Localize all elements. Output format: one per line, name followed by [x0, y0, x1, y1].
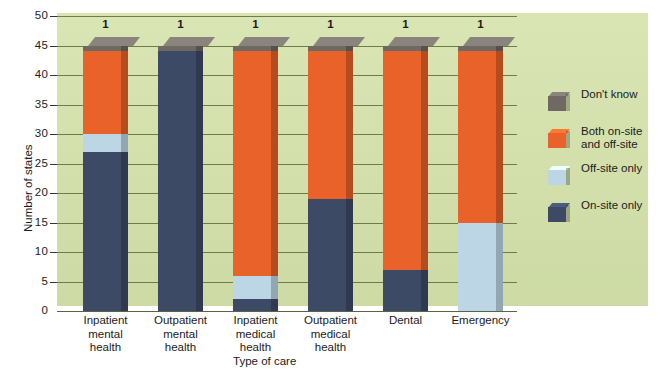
bar-segment-shading [346, 51, 353, 199]
bar-top-cap-face [313, 37, 365, 46]
bar-segment-shading [121, 46, 128, 52]
legend-swatch-side [566, 168, 570, 185]
bar-segment-shading [271, 276, 278, 300]
legend-item-label: Don't know [581, 88, 659, 101]
bar-top-value-label: 1 [383, 18, 428, 30]
y-axis: Number of states 05101520253035404550 [0, 0, 57, 378]
bar-segment[interactable] [458, 223, 503, 312]
bar-segment[interactable] [308, 51, 353, 199]
plot-area: 2731414412438119251737115291 [57, 16, 517, 311]
x-axis-tick-label: Emergency [426, 314, 536, 328]
bar-group: 24381 [233, 16, 278, 311]
legend-item-label: Both on-site and off-site [581, 125, 659, 151]
legend-swatch-side [566, 94, 570, 111]
bar-segment-shading [121, 152, 128, 311]
bar-top-cap [83, 37, 128, 46]
bar-segment[interactable] [83, 134, 128, 152]
bar-segment-shading [421, 51, 428, 269]
y-axis-tick-label: 30 [14, 127, 48, 139]
x-axis-tick-label-line: health [276, 341, 386, 355]
legend-item-label: On-site only [581, 199, 659, 212]
bar-top-value-label: 1 [158, 18, 203, 30]
legend-swatch-face [548, 207, 566, 222]
bar-segment[interactable] [458, 46, 503, 52]
y-axis-tick-label: 50 [14, 9, 48, 21]
y-axis-tick-label: 40 [14, 68, 48, 80]
bar-segment[interactable] [158, 46, 203, 52]
bar-top-cap [308, 37, 353, 46]
bar-segment-shading [346, 46, 353, 52]
axis-baseline [57, 311, 517, 312]
bar-top-value-label: 1 [308, 18, 353, 30]
legend-swatch-icon [548, 203, 570, 222]
bar-segment-shading [346, 199, 353, 311]
bar-segment[interactable] [83, 51, 128, 134]
bar-segment-shading [196, 46, 203, 52]
legend-swatch-icon [548, 92, 570, 111]
legend-swatch-face [548, 170, 566, 185]
legend-item[interactable]: On-site only [548, 197, 658, 234]
y-axis-tick-mark [50, 105, 57, 106]
y-axis-tick-label: 15 [14, 216, 48, 228]
x-axis-tick-label-line: medical [276, 328, 386, 342]
bar-segment-shading [496, 46, 503, 52]
chart-legend: Don't knowBoth on-site and off-siteOff-s… [548, 86, 658, 234]
bar-segment[interactable] [233, 46, 278, 52]
bar-top-cap [383, 37, 428, 46]
bar-top-cap [233, 37, 278, 46]
bar-segment[interactable] [458, 51, 503, 222]
bar-segment-shading [271, 51, 278, 275]
bar-segment-shading [496, 223, 503, 312]
y-axis-tick-mark [50, 252, 57, 253]
legend-swatch-icon [548, 166, 570, 185]
bar-top-cap [458, 37, 503, 46]
bar-group: 7371 [383, 16, 428, 311]
legend-item[interactable]: Off-site only [548, 160, 658, 197]
bar-segment[interactable] [158, 51, 203, 311]
bar-top-cap-face [463, 37, 515, 46]
y-axis-tick-mark [50, 46, 57, 47]
legend-item-label: Off-site only [581, 162, 659, 175]
legend-swatch-side [566, 205, 570, 222]
bar-segment[interactable] [83, 152, 128, 311]
bar-segment[interactable] [383, 51, 428, 269]
bar-segment[interactable] [308, 46, 353, 52]
bar-top-cap [158, 37, 203, 46]
y-axis-tick-mark [50, 75, 57, 76]
y-axis-tick-label: 20 [14, 186, 48, 198]
bar-segment[interactable] [83, 46, 128, 52]
bar-group: 441 [158, 16, 203, 311]
y-axis-tick-mark [50, 282, 57, 283]
legend-swatch-side [566, 131, 570, 148]
bar-segment-shading [421, 270, 428, 311]
x-axis-title: Type of care [233, 355, 296, 367]
x-axis-tick-label-line: Emergency [426, 314, 536, 328]
bar-segment-shading [121, 51, 128, 134]
bar-segment[interactable] [308, 199, 353, 311]
bar-segment[interactable] [233, 51, 278, 275]
y-axis-tick-label: 25 [14, 157, 48, 169]
y-axis-tick-label: 0 [14, 304, 48, 316]
bar-segment[interactable] [383, 270, 428, 311]
bar-top-cap-face [388, 37, 440, 46]
y-axis-tick-mark [50, 193, 57, 194]
bar-segment-shading [271, 46, 278, 52]
bar-top-cap-face [238, 37, 290, 46]
bar-segment[interactable] [383, 46, 428, 52]
bar-segment-shading [496, 51, 503, 222]
bar-top-value-label: 1 [83, 18, 128, 30]
y-axis-tick-mark [50, 134, 57, 135]
bar-group: 273141 [83, 16, 128, 311]
legend-item[interactable]: Both on-site and off-site [548, 123, 658, 160]
bar-top-value-label: 1 [233, 18, 278, 30]
bar-segment-shading [196, 51, 203, 311]
bar-segment[interactable] [233, 276, 278, 300]
legend-item[interactable]: Don't know [548, 86, 658, 123]
y-axis-tick-label: 5 [14, 275, 48, 287]
bar-top-cap-face [163, 37, 215, 46]
y-axis-tick-label: 10 [14, 245, 48, 257]
bar-top-cap-face [88, 37, 140, 46]
bar-segment[interactable] [233, 299, 278, 311]
stacked-bar-chart: Number of states 05101520253035404550 27… [0, 0, 662, 378]
y-axis-tick-mark [50, 164, 57, 165]
